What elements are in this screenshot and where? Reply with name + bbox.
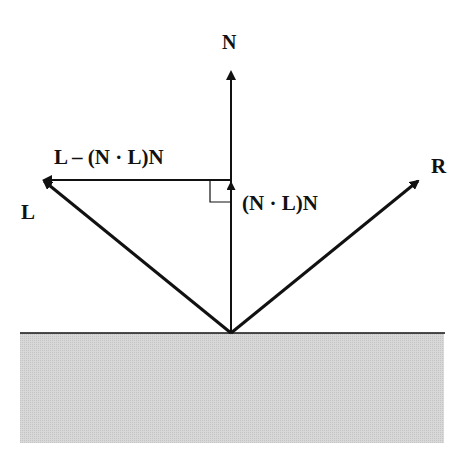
reflection-diagram: N L – (N · L)N L (N · L)N R <box>0 0 471 458</box>
diagram-canvas <box>0 0 471 458</box>
right-angle-marker <box>210 180 231 202</box>
surface-region <box>20 333 444 443</box>
label-light: L <box>21 202 35 223</box>
label-projection: (N · L)N <box>242 193 318 214</box>
label-perpendicular: L – (N · L)N <box>54 147 164 168</box>
label-normal: N <box>222 32 236 52</box>
light-vector <box>44 181 231 333</box>
label-reflected: R <box>431 156 446 177</box>
